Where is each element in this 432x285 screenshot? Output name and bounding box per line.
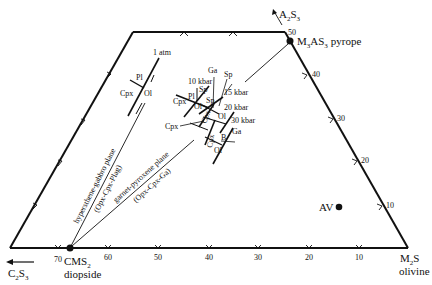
ternary-diagram: 70 60 50 40 30 20 10 50 40 30 20 10 A2S3… [0,0,432,285]
label-ga-30kbar: Ga [232,127,242,136]
label-sp-top: Sp [224,70,232,79]
svg-text:50: 50 [288,28,296,37]
pyrope-point [287,38,294,45]
av-label: AV [319,201,334,213]
one-atm-assemblage [128,58,159,116]
c2s3-label: C2S3 [8,267,29,282]
olivine-name: olivine [399,265,430,277]
label-sp-15kbar: Sp [206,96,214,105]
pyrope-label: M3AS3pyrope [297,35,362,50]
svg-text:10: 10 [355,253,363,262]
pyrope-tie-line [245,44,288,82]
label-pl-1atm: Pl [136,73,143,82]
label-cpx-10kbar: Cpx [173,97,186,106]
av-point [336,204,343,211]
svg-text:60: 60 [104,253,112,262]
svg-text:10: 10 [386,201,394,210]
svg-text:40: 40 [205,253,213,262]
svg-text:20: 20 [305,253,313,262]
label-1atm: 1 atm [153,48,172,57]
bottom-tick-labels: 70 60 50 40 30 20 10 [54,253,363,264]
diopside-name: diopside [64,268,101,280]
label-20kbar: 20 kbar [224,103,249,112]
label-pl-10kbar: Pl [188,92,195,101]
label-ol-10kbar: Ol [194,102,203,111]
label-ol-low: Ol [214,146,223,155]
svg-text:20: 20 [361,156,369,165]
svg-text:70: 70 [54,255,62,264]
label-cpx-1atm: Cpx [120,89,133,98]
svg-text:30: 30 [337,114,345,123]
label-ol-1atm: Ol [144,89,153,98]
label-b: B [221,133,226,142]
c2s3-arrow [6,259,34,265]
label-cpx-30kbar: Cpx [165,122,178,131]
svg-text:30: 30 [254,253,262,262]
a2s3-label: A2S3 [279,8,301,23]
label-ga-top: Ga [208,66,218,75]
svg-text:50: 50 [154,253,162,262]
label-30kbar: 30 kbar [231,116,256,125]
right-edge-ticks [302,73,382,210]
label-ol-20kbar: Ol [218,112,227,121]
svg-text:40: 40 [312,70,320,79]
label-sp-10kbar: Sp [199,85,207,94]
right-tick-labels: 50 40 30 20 10 [288,28,394,210]
label-15kbar: 15 kbar [224,88,249,97]
